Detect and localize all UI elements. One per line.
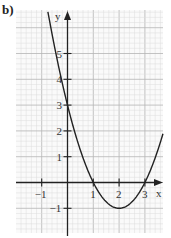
x-axis-label: x	[156, 187, 162, 199]
y-tick-label: 2	[57, 125, 63, 137]
grid-background	[16, 10, 163, 233]
x-tick-label: 3	[142, 188, 148, 200]
x-tick-label: −1	[35, 188, 47, 200]
y-tick-label: −1	[50, 202, 62, 214]
x-tick-label: 2	[116, 188, 122, 200]
grid-lines	[16, 10, 163, 233]
y-axis-label: y	[55, 10, 61, 22]
function-graph: xy −1123−112345	[0, 0, 171, 238]
y-tick-label: 3	[57, 99, 63, 111]
x-tick-label: 1	[90, 188, 96, 200]
y-tick-label: 1	[57, 151, 63, 163]
